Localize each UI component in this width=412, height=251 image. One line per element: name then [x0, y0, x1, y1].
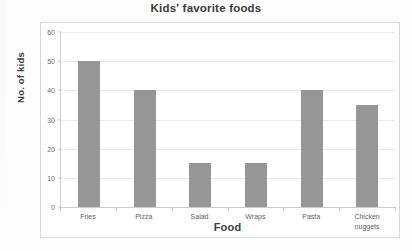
y-tick-label-0: 0 [51, 204, 55, 211]
bar-chicken-nuggets [356, 105, 378, 207]
y-tick-label-10: 10 [47, 174, 55, 181]
x-tick-mark [339, 207, 340, 211]
x-axis-title: Food [60, 221, 395, 233]
chart-screenshot: Kids' favorite foods No. of kids 0102030… [0, 0, 412, 251]
bar-salad [189, 163, 211, 207]
y-tick-label-50: 50 [47, 58, 55, 65]
bar-slot [61, 32, 117, 207]
x-tick-mark [228, 207, 229, 211]
y-tick-label-40: 40 [47, 87, 55, 94]
chart-title: Kids' favorite foods [0, 2, 412, 14]
bar-slot [172, 32, 228, 207]
x-tick-mark [395, 207, 396, 211]
x-axis-tickmarks [60, 207, 395, 211]
y-tick-label-30: 30 [47, 116, 55, 123]
bar-series [61, 32, 395, 207]
bar-slot [228, 32, 284, 207]
plot-area: 0102030405060 [60, 32, 395, 207]
bar-pizza [134, 90, 156, 207]
bar-slot [284, 32, 340, 207]
bar-fries [78, 61, 100, 207]
x-tick-mark [283, 207, 284, 211]
x-tick-mark [116, 207, 117, 211]
bar-slot [339, 32, 395, 207]
y-tick-label-20: 20 [47, 145, 55, 152]
y-tick-label-60: 60 [47, 29, 55, 36]
x-tick-mark [172, 207, 173, 211]
x-tick-mark [60, 207, 61, 211]
bar-wraps [245, 163, 267, 207]
y-axis-title: No. of kids [15, 23, 26, 133]
bar-pasta [301, 90, 323, 207]
scan-edge-artifact [0, 0, 6, 251]
bar-slot [117, 32, 173, 207]
